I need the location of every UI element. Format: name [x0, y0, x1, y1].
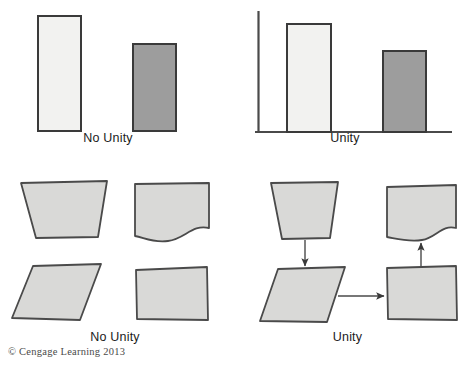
panel-bottom-left [12, 181, 209, 320]
panel-top-left [38, 16, 176, 131]
parallelogram-shape [260, 267, 345, 322]
short-dark-bar [383, 51, 426, 132]
figure-graphics [0, 0, 470, 368]
caption-bottom-right: Unity [250, 330, 445, 344]
rectangle-shape [136, 267, 208, 320]
tall-light-bar [38, 16, 81, 131]
caption-top-right: Unity [240, 131, 450, 145]
panel-bottom-right [260, 182, 457, 322]
parallelogram-shape [12, 264, 101, 320]
trapezoid-shape [271, 182, 338, 239]
unity-concept-figure: No Unity Unity No Unity Unity © Cengage … [0, 0, 470, 368]
panel-top-right [255, 11, 452, 132]
wavy-bottom-shape [387, 185, 456, 241]
short-dark-bar [133, 44, 176, 131]
caption-top-left: No Unity [0, 131, 216, 145]
tall-light-bar [287, 24, 331, 132]
trapezoid-shape [21, 181, 107, 238]
copyright-notice: © Cengage Learning 2013 [8, 346, 125, 357]
rectangle-shape [387, 266, 457, 320]
wavy-bottom-shape [135, 183, 209, 241]
caption-bottom-left: No Unity [0, 330, 230, 344]
